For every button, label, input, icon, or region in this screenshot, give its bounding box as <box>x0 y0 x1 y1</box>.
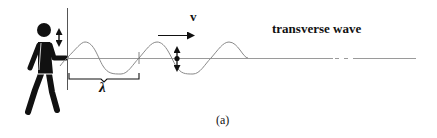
wavelength-label: λ <box>99 79 106 96</box>
particle-dot <box>174 56 179 61</box>
diagram-title: transverse wave <box>272 21 361 37</box>
person-icon <box>28 23 66 112</box>
particle-motion-arrow <box>174 48 179 70</box>
figure-caption: (a) <box>216 113 229 128</box>
velocity-label: v <box>190 9 197 25</box>
